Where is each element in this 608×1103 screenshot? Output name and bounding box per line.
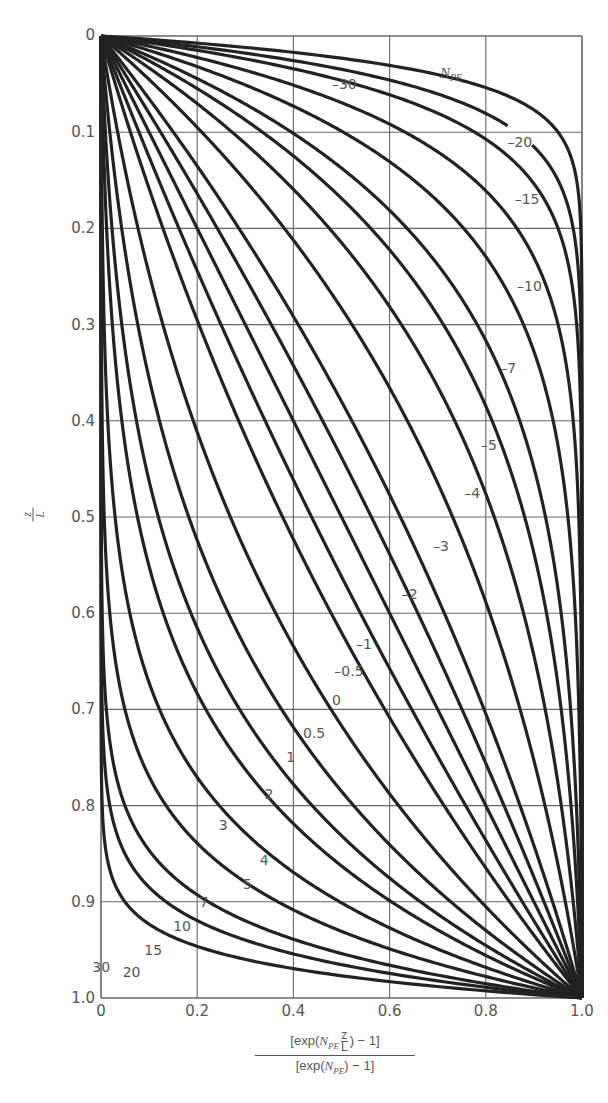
y-tick: 0.4 (71, 412, 95, 430)
curve-label: 10 (173, 918, 191, 934)
curve-label: –30 (332, 76, 357, 92)
curve-label: –10 (517, 278, 542, 294)
curve-label: 15 (144, 942, 162, 958)
axis-ticks: 00.20.40.60.81.000.10.20.30.40.50.60.70.… (71, 26, 594, 1020)
plot: –30–20–15–10–7–5–4–3–2–1–0.500.512345710… (0, 0, 608, 1103)
y-tick: 0.8 (71, 797, 95, 815)
y-axis-label: z L (21, 508, 46, 522)
curve-label: 0.5 (303, 725, 325, 741)
curve-label: –5 (481, 437, 497, 453)
curve-label: 7 (200, 894, 209, 910)
curve-label: 0 (332, 692, 341, 708)
curve-label: 5 (243, 876, 252, 892)
curve-label: 3 (219, 817, 228, 833)
y-tick: 1.0 (71, 989, 95, 1007)
y-tick: 0.7 (71, 700, 95, 718)
x-axis-label: [exp(NPEzL) − 1] [exp(NPE) − 1] (255, 1030, 415, 1076)
curve-label: –0.5 (334, 663, 363, 679)
curve-label: 30 (92, 959, 110, 975)
curve-label: 1 (286, 749, 295, 765)
y-tick: 0 (85, 26, 95, 44)
x-tick: 1.0 (570, 1002, 594, 1020)
y-tick: 0.1 (71, 123, 95, 141)
legend-title: NPE (439, 65, 462, 83)
curve-label: 4 (260, 852, 269, 868)
x-tick: 0.2 (185, 1002, 209, 1020)
curve-label: –4 (464, 485, 480, 501)
y-tick: 0.6 (71, 604, 95, 622)
curve-label: –7 (500, 360, 516, 376)
x-tick: 0.8 (474, 1002, 498, 1020)
curve-label: –1 (356, 636, 372, 652)
x-axis-label-numerator: [exp(NPEzL) − 1] (255, 1030, 415, 1053)
curve-label: 20 (123, 964, 141, 980)
curve-label: –3 (433, 538, 449, 554)
curve-label: 2 (265, 786, 274, 802)
curve-label: –20 (507, 134, 532, 150)
x-tick: 0.4 (281, 1002, 305, 1020)
curve-label: –2 (402, 586, 418, 602)
y-tick: 0.2 (71, 219, 95, 237)
fraction-bar (255, 1055, 415, 1056)
y-tick: 0.3 (71, 316, 95, 334)
x-tick: 0 (96, 1002, 106, 1020)
x-tick: 0.6 (378, 1002, 402, 1020)
x-axis-label-denominator: [exp(NPE) − 1] (255, 1058, 415, 1076)
curve-label: –15 (515, 191, 540, 207)
y-tick: 0.5 (71, 508, 95, 526)
y-tick: 0.9 (71, 893, 95, 911)
